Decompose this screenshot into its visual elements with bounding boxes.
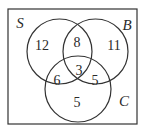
region-value-b-only: 11: [107, 38, 120, 53]
venn-svg: SBC 128113655: [0, 0, 144, 132]
region-value-c-only: 5: [74, 95, 81, 110]
region-value-s-and-b-and-c: 3: [76, 63, 83, 78]
region-value-s-and-c-only: 6: [54, 73, 61, 88]
venn-diagram: SBC 128113655: [0, 0, 144, 132]
set-label-b: B: [122, 17, 131, 33]
region-value-b-and-c-only: 5: [92, 73, 99, 88]
region-value-s-and-b-only: 8: [74, 35, 81, 50]
region-value-s-only: 12: [35, 38, 49, 53]
set-label-s: S: [16, 15, 24, 31]
set-label-c: C: [119, 93, 130, 109]
region-values: 128113655: [35, 35, 121, 110]
universal-set-rectangle: [8, 9, 137, 124]
